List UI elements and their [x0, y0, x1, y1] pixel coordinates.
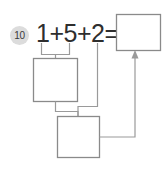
connector-operand-2-to-workbox2: [78, 43, 98, 116]
diagram-svg: [0, 0, 165, 169]
answer-box[interactable]: [117, 15, 161, 51]
work-box-2[interactable]: [58, 117, 100, 158]
connector-workbox2-to-answer-box: [100, 56, 136, 137]
math-worksheet-problem: 10 1+5+2=: [0, 0, 165, 169]
work-box-1[interactable]: [34, 59, 78, 102]
bracket-under-1-and-5: [42, 43, 70, 58]
arrowhead-icon: [132, 50, 139, 59]
connector-workbox1-to-workbox2: [56, 102, 79, 117]
